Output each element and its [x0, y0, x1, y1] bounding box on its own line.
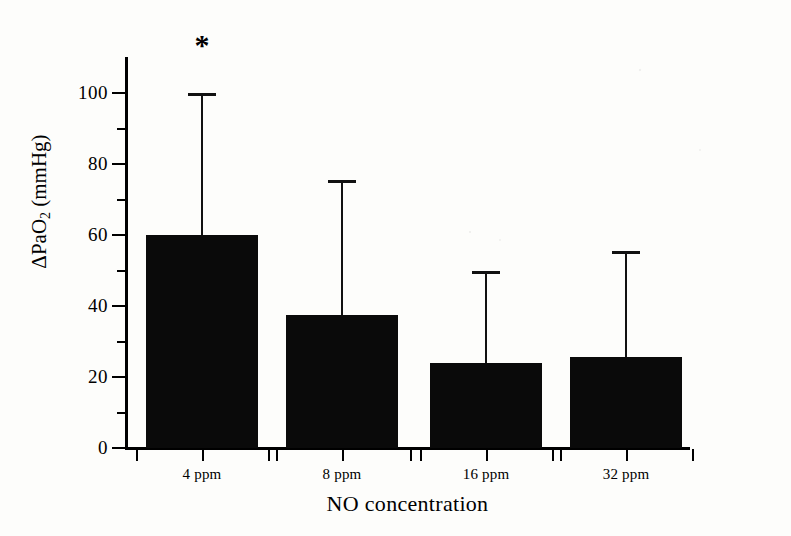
x-tick-boundary	[136, 449, 138, 461]
x-tick-boundary	[692, 449, 694, 461]
error-bar-stem	[341, 180, 343, 315]
y-tick-major	[112, 305, 126, 307]
x-tick-boundary	[560, 449, 562, 461]
y-tick-label-wrap: 60	[0, 225, 108, 244]
y-tick-label-wrap: 0	[0, 438, 108, 457]
y-axis-title-main: ΔPaO	[27, 219, 51, 269]
x-tick-boundary	[268, 449, 270, 461]
y-tick-minor	[117, 199, 126, 201]
error-bar-cap	[612, 251, 640, 254]
bar	[430, 363, 542, 448]
x-tick-label: 32 ppm	[603, 466, 650, 483]
y-tick-label-wrap: 80	[0, 154, 108, 173]
x-tick-category	[342, 449, 344, 461]
y-tick-minor	[117, 128, 126, 130]
chart-plot-area: 020406080100 4 ppm8 ppm16 ppm32 ppm * ΔP…	[0, 0, 791, 536]
x-tick-label: 8 ppm	[323, 466, 362, 483]
y-tick-label: 40	[48, 296, 108, 315]
x-tick-boundary	[420, 449, 422, 461]
x-tick-boundary	[552, 449, 554, 461]
x-tick-category	[486, 449, 488, 461]
error-bar-stem	[485, 271, 487, 363]
y-tick-label: 20	[48, 367, 108, 386]
bar	[570, 357, 682, 448]
bar	[146, 235, 258, 448]
y-tick-major	[112, 447, 126, 449]
y-tick-major	[112, 92, 126, 94]
x-axis-title: NO concentration	[125, 492, 690, 516]
figure-panel: 020406080100 4 ppm8 ppm16 ppm32 ppm * ΔP…	[0, 0, 791, 536]
y-tick-minor	[117, 341, 126, 343]
y-tick-label-wrap: 40	[0, 296, 108, 315]
y-axis-line	[125, 57, 128, 449]
error-bar-stem	[201, 93, 203, 235]
error-bar-stem	[625, 251, 627, 358]
y-tick-label: 100	[48, 83, 108, 102]
y-tick-label: 80	[48, 154, 108, 173]
y-tick-label-wrap: 20	[0, 367, 108, 386]
y-axis-title-unit: (mmHg)	[27, 134, 51, 212]
x-tick-category	[202, 449, 204, 461]
y-tick-label-wrap: 100	[0, 83, 108, 102]
error-bar-cap	[472, 271, 500, 274]
x-tick-label: 4 ppm	[183, 466, 222, 483]
significance-asterisk: *	[195, 30, 210, 60]
y-axis-title: ΔPaO2 (mmHg)	[27, 102, 54, 302]
x-tick-boundary	[410, 449, 412, 461]
x-tick-boundary	[276, 449, 278, 461]
error-bar-cap	[328, 180, 356, 183]
bar	[286, 315, 398, 448]
error-bar-cap	[188, 93, 216, 96]
y-tick-major	[112, 163, 126, 165]
x-tick-label: 16 ppm	[463, 466, 510, 483]
y-tick-label: 0	[48, 438, 108, 457]
y-tick-major	[112, 376, 126, 378]
y-tick-label: 60	[48, 225, 108, 244]
y-axis-title-subscript: 2	[38, 212, 53, 219]
x-tick-category	[626, 449, 628, 461]
y-tick-major	[112, 234, 126, 236]
y-tick-minor	[117, 412, 126, 414]
y-tick-minor	[117, 270, 126, 272]
